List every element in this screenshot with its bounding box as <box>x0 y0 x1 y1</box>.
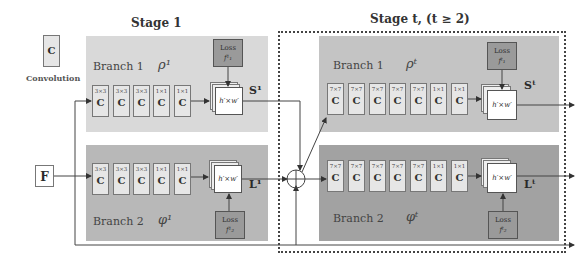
connections <box>0 0 584 271</box>
